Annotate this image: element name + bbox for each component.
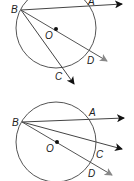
center-point: [55, 140, 59, 144]
figure-2: B A O C D: [12, 102, 124, 181]
circle-o: [16, 0, 96, 68]
label-o: O: [46, 143, 54, 154]
label-c: C: [96, 149, 104, 160]
label-a: A: [87, 0, 95, 7]
ray-ba: [21, 4, 122, 10]
geometry-diagrams: B A O D C B A O C D: [0, 0, 134, 181]
label-d: D: [88, 168, 95, 179]
label-b: B: [12, 117, 19, 128]
ray-bc: [21, 10, 74, 84]
label-b: B: [11, 4, 18, 15]
ray-ba: [22, 118, 124, 122]
label-d: D: [87, 55, 94, 66]
ray-bc: [22, 122, 122, 149]
figure-1: B A O D C: [11, 0, 122, 84]
label-o: O: [45, 30, 53, 41]
label-c: C: [55, 71, 63, 82]
center-point: [54, 27, 58, 31]
label-a: A: [88, 107, 96, 118]
ray-bd: [21, 10, 107, 61]
